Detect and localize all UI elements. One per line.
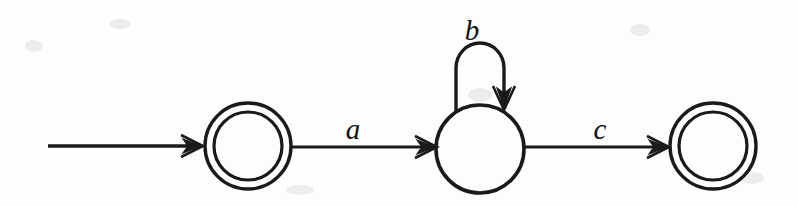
automaton-diagram: a b c [0, 0, 798, 206]
start-arrow [48, 135, 203, 157]
state-2-ring [436, 105, 524, 193]
state-1-outer-ring [205, 103, 291, 189]
state-1[interactable] [205, 103, 291, 189]
state-3-outer-ring [670, 103, 756, 189]
edge-a[interactable]: a [291, 113, 437, 158]
state-1-inner-ring [214, 112, 282, 180]
edge-c[interactable]: c [524, 113, 669, 158]
edge-b-label: b [465, 14, 480, 46]
automaton-canvas: a b c [0, 0, 798, 206]
state-3-inner-ring [679, 112, 747, 180]
edge-b-loop [456, 43, 504, 113]
state-2[interactable] [436, 105, 524, 193]
scan-noise [25, 19, 764, 195]
state-3[interactable] [670, 103, 756, 189]
edge-c-label: c [594, 113, 607, 145]
edge-a-label: a [346, 113, 361, 145]
